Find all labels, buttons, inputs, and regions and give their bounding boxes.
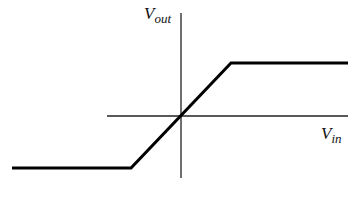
- x-axis-label: Vin: [321, 124, 342, 147]
- y-axis-label: Vout: [144, 4, 171, 27]
- transfer-curve-diagram: [0, 0, 359, 197]
- y-axis-label-sub: out: [154, 11, 171, 26]
- y-axis-label-main: V: [144, 4, 154, 23]
- x-axis-label-sub: in: [331, 131, 341, 146]
- x-axis-label-main: V: [321, 124, 331, 143]
